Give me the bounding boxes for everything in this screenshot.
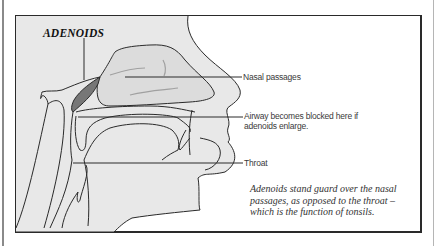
label-nasal-passages: Nasal passages bbox=[243, 72, 301, 82]
label-airway-line2: adenoids enlarge. bbox=[244, 121, 308, 131]
label-airway-line1: Airway becomes blocked here if bbox=[244, 111, 358, 121]
diagram-caption: Adenoids stand guard over the nasal pass… bbox=[250, 183, 420, 218]
diagram-title: ADENOIDS bbox=[43, 27, 104, 39]
label-throat: Throat bbox=[244, 158, 267, 168]
